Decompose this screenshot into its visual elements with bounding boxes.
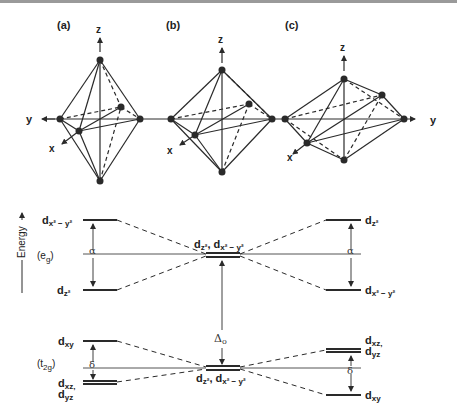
orbital-label-right-dx2y2: dx² − y² <box>365 284 395 298</box>
eg-group-label: (eg) <box>37 250 54 264</box>
panel-label-a: (a) <box>57 19 71 31</box>
orbital-label-left-dz2: dz² <box>57 284 71 298</box>
y-axis-label-a: y <box>26 113 33 125</box>
alpha-label-right: α <box>347 245 354 256</box>
z-axis-label-b: z <box>218 34 223 45</box>
orbital-label-left-dx2y2: dx² − y² <box>42 214 72 228</box>
delta-label-left: δ <box>89 359 95 370</box>
crystal-field-diagram: (a) z y x (b) z x <box>0 0 457 420</box>
x-axis-label-a: x <box>49 143 55 154</box>
orbital-label-left-dxy: dxy <box>58 335 74 349</box>
orbital-label-center-t2g: dz², dx² − y² <box>196 372 246 386</box>
x-axis-label-c: x <box>287 152 293 163</box>
orbital-label-center-eg: dz², dx² − y² <box>194 238 244 252</box>
delta-o-label: Δo <box>214 332 227 346</box>
t2g-group-label: (t2g) <box>37 358 55 372</box>
panel-label-c: (c) <box>285 19 299 31</box>
octahedron-c <box>282 56 408 164</box>
x-axis-label-b: x <box>167 145 173 156</box>
delta-label-right: δ <box>347 365 353 376</box>
z-axis-label-c: z <box>340 42 345 53</box>
octahedron-a <box>57 38 144 185</box>
orbital-label-right-dz2: dz² <box>365 214 379 228</box>
energy-axis-label: Energy <box>16 226 27 258</box>
panel-label-b: (b) <box>166 19 180 31</box>
octahedron-b <box>168 48 276 176</box>
z-axis-label-a: z <box>96 24 101 35</box>
orbital-label-right-dxy: dxy <box>365 389 381 403</box>
y-axis-label-c: y <box>430 114 437 126</box>
alpha-label-left: α <box>89 245 96 256</box>
